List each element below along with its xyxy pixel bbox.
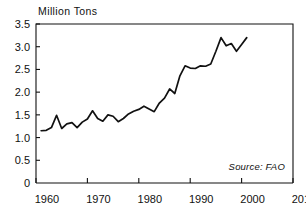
- x-tick-label: 1980: [138, 193, 162, 205]
- x-tick-label: 2000: [240, 193, 264, 205]
- chart-container: Million Tons 00.51.01.52.02.53.03.5 1960…: [0, 0, 306, 210]
- x-tick-label: 2010: [292, 193, 306, 205]
- x-axis-tick-marks: [36, 178, 293, 183]
- y-tick-label: 2.5: [15, 63, 30, 75]
- y-tick-label: 3.5: [15, 18, 30, 30]
- y-tick-label: 3.0: [15, 41, 30, 53]
- y-tick-label: 0.5: [15, 154, 30, 166]
- y-tick-label: 1.5: [15, 109, 30, 121]
- y-tick-label: 1.0: [15, 132, 30, 144]
- y-tick-label: 0: [24, 177, 30, 189]
- y-axis-tick-marks: [36, 24, 40, 160]
- x-tick-label: 1990: [189, 193, 213, 205]
- y-axis-tick-labels: 00.51.01.52.02.53.03.5: [15, 18, 30, 189]
- plot-frame: [36, 24, 293, 183]
- y-axis-title: Million Tons: [38, 5, 97, 17]
- source-annotation: Source: FAO: [229, 161, 286, 172]
- x-axis-tick-labels: 196019701980199020002010: [35, 193, 306, 205]
- line-chart: Million Tons 00.51.01.52.02.53.03.5 1960…: [0, 0, 306, 210]
- y-tick-label: 2.0: [15, 86, 30, 98]
- x-tick-label: 1970: [86, 193, 110, 205]
- data-series-line: [41, 38, 247, 131]
- x-tick-label: 1960: [35, 193, 59, 205]
